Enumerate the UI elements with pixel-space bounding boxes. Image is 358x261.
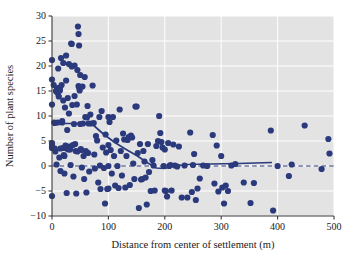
data-point	[163, 188, 169, 194]
data-point	[193, 197, 199, 203]
x-tick-label: 300	[214, 221, 229, 232]
data-point	[68, 162, 74, 168]
data-point	[223, 182, 229, 188]
data-point	[105, 185, 111, 191]
data-point	[69, 41, 75, 47]
data-point	[123, 153, 129, 159]
data-point	[83, 189, 89, 195]
data-point	[97, 186, 103, 192]
data-point	[64, 190, 70, 196]
y-tick-label: 20	[36, 60, 46, 71]
data-point	[140, 148, 146, 154]
data-point	[64, 127, 70, 133]
data-point	[197, 175, 203, 181]
data-point	[187, 129, 193, 135]
data-point	[302, 122, 308, 128]
data-point	[137, 141, 143, 147]
data-point	[149, 157, 155, 163]
data-point	[170, 141, 176, 147]
data-point	[70, 173, 76, 179]
data-point	[146, 169, 152, 175]
data-point	[247, 200, 253, 206]
data-point	[76, 42, 82, 48]
data-point	[109, 170, 115, 176]
data-point	[119, 172, 125, 178]
y-tick-label: 10	[36, 110, 46, 121]
data-point	[57, 87, 63, 93]
data-point	[318, 166, 324, 172]
data-point	[162, 146, 168, 152]
x-tick-label: 200	[157, 221, 172, 232]
data-point	[289, 161, 295, 167]
data-point	[136, 205, 142, 211]
data-point	[63, 52, 69, 58]
data-point	[96, 114, 102, 120]
data-point	[184, 194, 190, 200]
data-point	[325, 136, 331, 142]
data-point	[55, 65, 61, 71]
data-point	[61, 170, 67, 176]
data-point	[59, 119, 65, 125]
data-point	[75, 23, 81, 29]
data-point	[134, 103, 140, 109]
data-point	[158, 139, 164, 145]
x-tick-label: 500	[327, 221, 342, 232]
data-point	[251, 180, 257, 186]
data-point	[60, 60, 66, 66]
data-point	[152, 187, 158, 193]
data-point	[176, 143, 182, 149]
data-point	[81, 176, 87, 182]
data-point	[145, 141, 151, 147]
data-point	[218, 153, 224, 159]
data-point	[191, 151, 197, 157]
data-point	[270, 207, 276, 213]
data-point	[86, 168, 92, 174]
y-tick-label: −5	[35, 185, 46, 196]
data-point	[168, 187, 174, 193]
data-point	[111, 153, 117, 159]
data-point	[118, 148, 124, 154]
data-point	[91, 151, 97, 157]
y-tick-label: 30	[36, 10, 46, 21]
data-point	[95, 179, 101, 185]
data-point	[87, 111, 93, 117]
data-point	[194, 185, 200, 191]
data-point	[211, 180, 217, 186]
data-point	[65, 95, 71, 101]
data-point	[61, 153, 67, 159]
data-point	[75, 31, 81, 37]
y-tick-label: 5	[41, 135, 46, 146]
y-tick-label: 0	[41, 160, 46, 171]
y-tick-label: −10	[30, 210, 46, 221]
y-tick-label: 15	[36, 85, 46, 96]
data-point	[79, 83, 85, 89]
data-point	[214, 142, 220, 148]
data-point	[210, 132, 216, 138]
data-point	[225, 188, 231, 194]
data-point	[221, 200, 227, 206]
data-point	[79, 164, 85, 170]
data-point	[179, 194, 185, 200]
data-point	[84, 103, 90, 109]
data-point	[72, 141, 78, 147]
data-point	[129, 134, 135, 140]
data-point	[99, 108, 105, 114]
data-point	[53, 161, 59, 167]
data-point	[82, 74, 88, 80]
data-point	[71, 93, 77, 99]
data-point	[74, 101, 80, 107]
data-point	[115, 185, 121, 191]
data-point	[326, 150, 332, 156]
data-point	[120, 130, 126, 136]
data-point	[241, 179, 247, 185]
x-tick-label: 0	[50, 221, 55, 232]
data-point	[127, 182, 133, 188]
data-point	[66, 110, 72, 116]
data-point	[110, 114, 116, 120]
data-point	[85, 150, 91, 156]
scatter-plot: −10−5051015202530 0100200300400500 Dista…	[0, 0, 358, 261]
data-point	[268, 127, 274, 133]
figure-container: −10−5051015202530 0100200300400500 Dista…	[0, 0, 358, 261]
data-point	[108, 147, 114, 153]
y-tick-label: 25	[36, 35, 46, 46]
